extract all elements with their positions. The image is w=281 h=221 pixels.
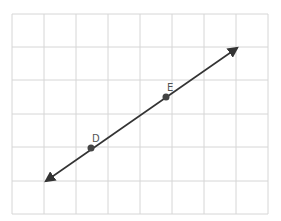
label-e: E	[167, 82, 173, 93]
diagram-canvas: D E	[0, 0, 281, 221]
grid	[12, 14, 268, 214]
grid-diagram: D E	[0, 0, 281, 221]
point-d	[88, 145, 95, 152]
label-d: D	[92, 133, 100, 144]
point-e	[163, 94, 170, 101]
